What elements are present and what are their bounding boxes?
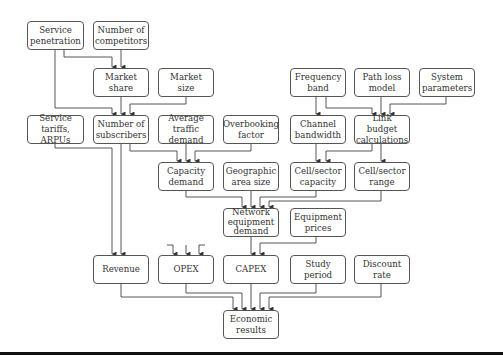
node-market-share: Market share bbox=[93, 68, 149, 97]
node-revenue: Revenue bbox=[93, 255, 149, 284]
node-system-parameters: System parameters bbox=[419, 68, 475, 97]
node-service-tariffs-arpus: Service tariffs, ARPUs bbox=[27, 115, 84, 144]
node-market-size: Market size bbox=[158, 68, 214, 97]
node-capex: CAPEX bbox=[223, 255, 279, 284]
node-cell-sector-capacity: Cell/sector capacity bbox=[290, 162, 346, 191]
node-economic-results: Economic results bbox=[223, 310, 279, 339]
node-average-traffic-demand: Average traffic demand bbox=[158, 115, 214, 144]
node-frequency-band: Frequency band bbox=[290, 68, 346, 97]
node-overbooking-factor: Overbooking factor bbox=[223, 115, 279, 144]
node-cell-sector-range: Cell/sector range bbox=[354, 162, 410, 191]
node-network-equipment-demand: Network equipment demand bbox=[223, 208, 279, 237]
node-number-of-competitors: Number of competitors bbox=[93, 21, 149, 50]
node-geographic-area-size: Geographic area size bbox=[223, 162, 279, 191]
diagram-canvas: Service penetration Number of competitor… bbox=[0, 0, 503, 360]
node-opex: OPEX bbox=[158, 255, 214, 284]
node-service-penetration: Service penetration bbox=[27, 21, 84, 50]
node-study-period: Study period bbox=[290, 255, 346, 284]
node-equipment-prices: Equipment prices bbox=[290, 208, 346, 237]
node-capacity-demand: Capacity demand bbox=[158, 162, 214, 191]
node-channel-bandwidth: Channel bandwidth bbox=[290, 115, 346, 144]
node-path-loss-model: Path loss model bbox=[354, 68, 410, 97]
bottom-rule bbox=[0, 352, 503, 355]
node-link-budget-calculations: Link budget calculations bbox=[354, 115, 410, 144]
node-discount-rate: Discount rate bbox=[354, 255, 410, 284]
node-number-of-subscribers: Number of subscribers bbox=[93, 115, 149, 144]
